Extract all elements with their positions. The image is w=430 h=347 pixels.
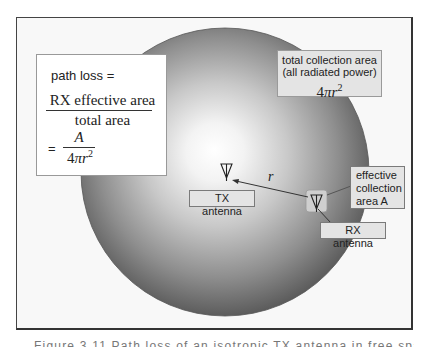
effective-label-line3: area A (356, 195, 400, 208)
effective-label-line2: collection (356, 182, 400, 195)
formula-numerator-A: A (63, 129, 95, 146)
figure-caption: Figure 3.11 Path loss of an isotropic TX… (34, 338, 414, 347)
effective-collection-area-label: effective collection area A (350, 166, 405, 209)
total-collection-area-box: total collection area (all radiated powe… (277, 50, 382, 97)
rx-antenna-label: RX antenna (320, 222, 386, 239)
path-loss-box: path loss = RX effective area total area… (36, 54, 167, 176)
formula-exponent: 2 (88, 148, 93, 159)
path-loss-denominator: total area (37, 112, 168, 129)
path-loss-numerator: RX effective area (42, 92, 163, 109)
total-area-line1: total collection area (278, 54, 381, 66)
path-loss-title: path loss = (51, 68, 114, 83)
total-formula-pi: π (324, 84, 332, 100)
formula-coefficient: 4 (67, 150, 75, 166)
total-area-line2: (all radiated power) (278, 66, 381, 78)
total-formula-coefficient: 4 (317, 84, 325, 100)
figure-canvas: path loss = RX effective area total area… (0, 0, 430, 347)
tx-antenna-label: TX antenna (189, 190, 255, 207)
distance-r-label: r (268, 169, 273, 185)
equals-sign: = (48, 141, 56, 156)
fraction-bar (46, 110, 152, 111)
formula-pi: π (75, 150, 83, 166)
total-formula-exponent: 2 (337, 82, 342, 93)
total-area-formula: 4πr2 (278, 80, 381, 100)
formula-denominator: 4πr2 (63, 148, 97, 167)
effective-label-line1: effective (356, 169, 400, 182)
